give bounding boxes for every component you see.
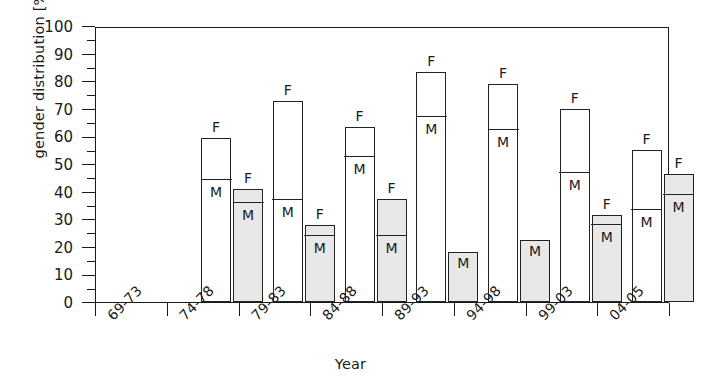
- x-tick: [95, 303, 96, 316]
- x-tick: [239, 303, 240, 316]
- segment-divider: [376, 235, 407, 236]
- x-axis-title: Year: [0, 356, 701, 372]
- y-tick-minor: [87, 68, 95, 69]
- bar-female-label: F: [665, 156, 693, 170]
- bar-female-label: F: [202, 120, 230, 134]
- y-tick-minor: [87, 206, 95, 207]
- y-tick-major: [82, 81, 95, 82]
- y-tick-minor: [87, 95, 95, 96]
- bar-female-label: F: [346, 109, 374, 123]
- segment-divider: [344, 156, 375, 157]
- x-tick: [526, 303, 527, 316]
- bar-male-label: M: [202, 185, 230, 199]
- bar-male-label: M: [274, 205, 302, 219]
- bar-female-label: F: [633, 132, 661, 146]
- y-tick-major: [82, 302, 95, 303]
- bar-male-label: M: [234, 208, 262, 222]
- x-tick: [167, 303, 168, 316]
- y-tick-minor: [87, 289, 95, 290]
- bar-white[interactable]: FM: [201, 138, 231, 302]
- y-tick-label: 40: [54, 185, 73, 200]
- y-tick-label: 50: [54, 158, 73, 173]
- bar-gray[interactable]: M: [448, 252, 478, 302]
- segment-divider: [591, 224, 622, 225]
- bar-male-label: M: [665, 200, 693, 214]
- y-tick-label: 80: [54, 75, 73, 90]
- bar-male-label: M: [378, 241, 406, 255]
- bar-male-label: M: [593, 230, 621, 244]
- x-tick: [669, 303, 670, 316]
- bar-gray[interactable]: FM: [377, 199, 407, 303]
- segment-divider: [416, 116, 447, 117]
- bar-white[interactable]: FM: [632, 150, 662, 302]
- bar-male-label: M: [417, 122, 445, 136]
- y-tick-major: [82, 247, 95, 248]
- bar-gray[interactable]: M: [520, 240, 550, 302]
- y-tick-label: 10: [54, 268, 73, 283]
- y-tick-minor: [87, 123, 95, 124]
- segment-divider: [201, 179, 232, 180]
- bar-male-label: M: [561, 178, 589, 192]
- bar-male-label: M: [346, 162, 374, 176]
- y-tick-major: [82, 275, 95, 276]
- segment-divider: [272, 199, 303, 200]
- x-tick: [597, 303, 598, 316]
- y-tick-major: [82, 109, 95, 110]
- bar-male-label: M: [633, 215, 661, 229]
- y-tick-minor: [87, 178, 95, 179]
- bar-male-label: M: [521, 244, 549, 258]
- bar-female-label: F: [417, 54, 445, 68]
- bar-female-label: F: [274, 83, 302, 97]
- bar-male-label: M: [449, 256, 477, 270]
- bar-white[interactable]: FM: [273, 101, 303, 302]
- bar-female-label: F: [561, 91, 589, 105]
- y-tick-label: 70: [54, 102, 73, 117]
- bar-female-label: F: [378, 181, 406, 195]
- segment-divider: [631, 209, 662, 210]
- bar-gray[interactable]: FM: [305, 225, 335, 302]
- segment-divider: [304, 235, 335, 236]
- bar-female-label: F: [593, 197, 621, 211]
- bar-female-label: F: [306, 207, 334, 221]
- bar-gray[interactable]: FM: [233, 189, 263, 302]
- y-tick-label: 100: [44, 20, 73, 35]
- segment-divider: [233, 202, 264, 203]
- y-tick-major: [82, 26, 95, 27]
- y-tick-major: [82, 137, 95, 138]
- y-tick-minor: [87, 233, 95, 234]
- bar-white[interactable]: FM: [560, 109, 590, 302]
- chart-figure: gender distribution [%] Year 01020304050…: [0, 0, 701, 384]
- y-tick-label: 60: [54, 130, 73, 145]
- y-tick-minor: [87, 261, 95, 262]
- bar-female-label: F: [489, 66, 517, 80]
- segment-divider: [559, 172, 590, 173]
- bar-male-label: M: [306, 241, 334, 255]
- y-tick-label: 0: [63, 296, 73, 311]
- y-tick-major: [82, 219, 95, 220]
- bar-white[interactable]: FM: [416, 72, 446, 302]
- x-tick: [382, 303, 383, 316]
- bar-white[interactable]: FM: [488, 84, 518, 302]
- bar-female-label: F: [234, 171, 262, 185]
- y-tick-minor: [87, 40, 95, 41]
- bar-white[interactable]: FM: [345, 127, 375, 302]
- bar-gray[interactable]: FM: [592, 215, 622, 302]
- bar-male-label: M: [489, 135, 517, 149]
- y-tick-label: 30: [54, 213, 73, 228]
- x-tick: [454, 303, 455, 316]
- y-tick-label: 20: [54, 240, 73, 255]
- y-tick-major: [82, 164, 95, 165]
- y-tick-label: 90: [54, 47, 73, 62]
- plot-area: FMFMFMFMFMFMFMMFMMFMFMFMFMFMFM: [95, 27, 669, 303]
- bar-gray[interactable]: FM: [664, 174, 694, 302]
- y-axis: 0102030405060708090100: [0, 0, 95, 330]
- segment-divider: [663, 194, 694, 195]
- segment-divider: [488, 129, 519, 130]
- y-tick-major: [82, 54, 95, 55]
- x-tick: [310, 303, 311, 316]
- y-tick-major: [82, 192, 95, 193]
- y-tick-minor: [87, 151, 95, 152]
